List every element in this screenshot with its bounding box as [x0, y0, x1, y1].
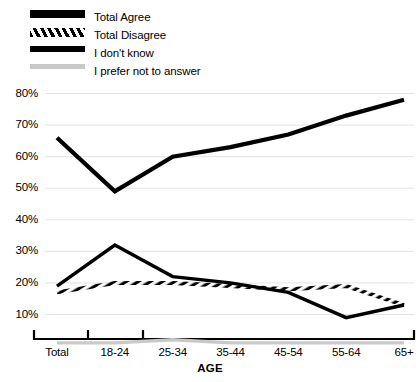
y-axis-tick-label: 20% [4, 276, 38, 288]
y-axis-tick-label: 80% [4, 87, 38, 99]
x-axis-line [34, 330, 414, 339]
axis-lines [34, 330, 414, 339]
series-line-total-agree [57, 100, 404, 192]
x-axis-tick-label: 25-34 [141, 346, 205, 358]
y-axis-tick-label: 10% [4, 308, 38, 320]
y-axis-tick-label: 40% [4, 213, 38, 225]
y-axis-tick-label: 50% [4, 181, 38, 193]
series-line-i-prefer-not-to-answer [57, 340, 404, 343]
x-axis-tick-label: 45-54 [256, 346, 320, 358]
x-axis-tick-label: 65+ [372, 346, 420, 358]
y-axis-tick-label: 60% [4, 150, 38, 162]
y-axis-tick-label: 70% [4, 118, 38, 130]
series-line-i-don-t-know [57, 245, 404, 318]
x-axis-tick-label: Total [25, 346, 89, 358]
y-axis-tick-label: 30% [4, 244, 38, 256]
x-axis-title: AGE [0, 362, 420, 374]
plot-svg [0, 0, 420, 382]
x-axis-tick-label: 55-64 [314, 346, 378, 358]
plot-area: 10%20%30%40%50%60%70%80% Total18-2425-34… [0, 0, 420, 382]
chart-container: Total Agree Total Disagree I don't know … [0, 0, 420, 382]
x-axis-tick-label: 18-24 [83, 346, 147, 358]
series-layer [57, 100, 404, 343]
x-axis-tick-label: 35-44 [199, 346, 263, 358]
series-line-total-disagree [57, 283, 404, 305]
